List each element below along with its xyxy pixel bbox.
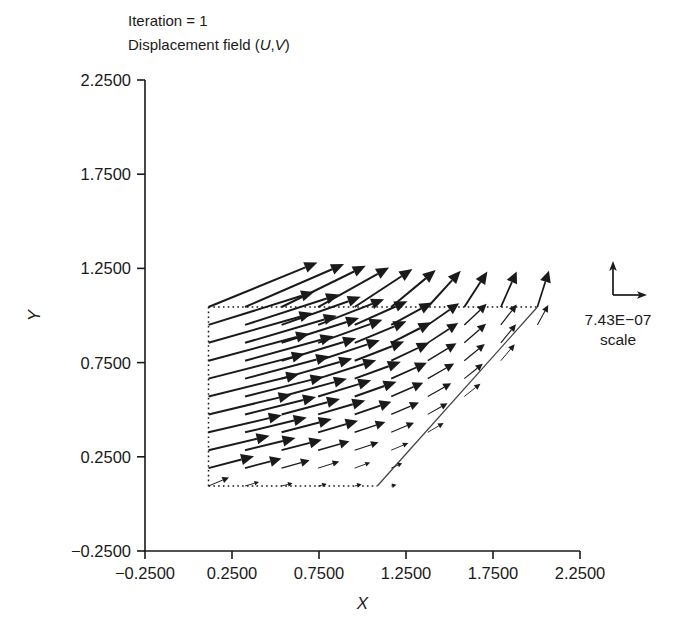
vector-shaft (282, 422, 320, 432)
displacement-vector (391, 402, 419, 414)
displacement-vector (355, 483, 362, 488)
vector-shaft (501, 349, 511, 361)
vector-shaft (245, 360, 317, 379)
y-tick-label: 1.7500 (81, 165, 131, 183)
vector-head (345, 419, 359, 430)
vector-head (300, 458, 310, 466)
vector-shaft (428, 407, 442, 415)
x-tick-label: 2.2500 (555, 564, 605, 582)
vector-head (382, 381, 396, 392)
displacement-vector (391, 443, 408, 451)
displacement-vector (391, 483, 396, 488)
vector-shaft (318, 463, 333, 468)
vector-shaft (464, 310, 480, 325)
vector-shaft (245, 461, 270, 468)
displacement-vector (428, 383, 451, 396)
vector-shaft (245, 441, 283, 450)
field-label-prefix: Displacement field ( (128, 36, 260, 53)
vector-shaft (245, 380, 311, 397)
vector-head (366, 339, 380, 350)
vector-head (378, 400, 391, 411)
vector-shaft (391, 445, 403, 450)
vector-head (365, 462, 370, 467)
y-tick-label: −0.2500 (71, 542, 131, 560)
vector-shaft (428, 368, 446, 379)
displacement-vector (537, 271, 550, 307)
vector-shaft (501, 282, 512, 307)
vector-head (282, 436, 296, 447)
domain-edge-solid (377, 307, 537, 486)
vector-head (338, 357, 352, 368)
y-axis-title: Y (25, 308, 44, 321)
vector-shaft (209, 480, 223, 486)
x-tick-label: 1.7500 (468, 564, 518, 582)
vector-head (298, 311, 312, 322)
vector-shaft (318, 384, 359, 396)
vector-shaft (355, 406, 381, 415)
y-tick-label: 0.7500 (81, 354, 131, 372)
vector-head (476, 271, 488, 285)
vector-shaft (355, 445, 372, 451)
vector-head (370, 441, 378, 448)
vector-shaft (355, 464, 366, 468)
vector-shaft (355, 485, 358, 486)
vector-head (474, 384, 481, 390)
vector-shaft (355, 346, 392, 360)
vector-head (445, 343, 456, 352)
vector-shaft (391, 426, 407, 433)
legend-magnitude: 7.43E−07 (585, 311, 652, 328)
displacement-vector (391, 422, 414, 432)
vector-shaft (428, 348, 448, 360)
vector-head (345, 317, 359, 328)
scale-legend: 7.43E−07 scale (585, 261, 652, 348)
displacement-vector (501, 344, 515, 361)
vector-shaft (391, 368, 416, 379)
vector-shaft (209, 377, 287, 396)
displacement-vector (355, 421, 386, 433)
vector-shaft (464, 388, 475, 397)
vector-field-figure: Iteration = 1 Displacement field (U,V) −… (0, 0, 687, 630)
vector-head (318, 417, 332, 428)
displacement-vector (428, 271, 461, 307)
y-tick-label: 2.2500 (81, 71, 131, 89)
vector-shaft (391, 328, 420, 343)
vector-head (256, 433, 270, 444)
field-label: Displacement field (U,V) (128, 36, 290, 53)
vector-head (326, 397, 340, 408)
annotation-group: Iteration = 1 Displacement field (U,V) (128, 12, 290, 53)
vector-shaft (464, 349, 478, 361)
vector-head (509, 304, 517, 312)
vector-head (302, 395, 316, 406)
vector-shaft (209, 398, 280, 415)
vector-shaft (501, 311, 512, 325)
displacement-vector (464, 324, 486, 343)
displacement-vector (537, 305, 548, 325)
vector-head (333, 377, 347, 388)
displacement-vector (428, 323, 458, 343)
displacement-vector (355, 361, 401, 379)
vector-shaft (318, 444, 340, 450)
vector-shaft (282, 484, 289, 486)
vector-shaft (428, 329, 449, 343)
vector-head (293, 415, 307, 426)
vector-head (392, 483, 397, 488)
vector-shaft (391, 387, 413, 397)
x-tick-label: −0.2500 (115, 564, 175, 582)
vector-head (476, 344, 485, 352)
vector-head (240, 454, 254, 465)
displacement-vector (209, 454, 255, 468)
x-tick-label: 0.7500 (294, 564, 344, 582)
vector-head (357, 379, 371, 390)
vector-shaft (282, 463, 302, 469)
vector-shaft (537, 311, 545, 325)
vector-shaft (464, 282, 480, 307)
vector-head (254, 481, 259, 486)
displacement-vector (428, 363, 454, 378)
vector-head (357, 483, 362, 488)
vector-shaft (282, 322, 347, 343)
vector-shaft (428, 387, 444, 396)
vector-head (368, 319, 382, 330)
vector-head (269, 456, 281, 467)
vector-head (332, 460, 339, 466)
vector-head (310, 374, 324, 385)
